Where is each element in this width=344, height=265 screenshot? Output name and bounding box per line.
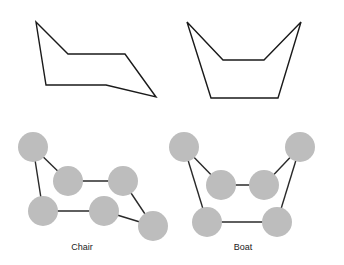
chair-atom	[28, 196, 58, 226]
boat-atom	[262, 207, 292, 237]
chair-atom	[18, 132, 48, 162]
boat-label: Boat	[234, 242, 253, 252]
boat-atom	[249, 170, 279, 200]
chair-outline-polygon	[36, 22, 156, 97]
boat-outline	[187, 22, 301, 98]
boat-atom	[192, 207, 222, 237]
boat-atom	[285, 132, 315, 162]
chair-atom	[53, 166, 83, 196]
boat-outline-polygon	[187, 22, 301, 98]
chair-label: Chair	[71, 242, 93, 252]
chair-outline	[36, 22, 156, 97]
boat-atom	[169, 132, 199, 162]
chair-atom	[108, 166, 138, 196]
chair-atom	[89, 196, 119, 226]
boat-atom	[206, 170, 236, 200]
boat-ball-model	[169, 132, 315, 237]
chair-atom	[138, 211, 168, 241]
conformation-diagram	[0, 0, 344, 265]
chair-ball-model	[18, 132, 168, 241]
